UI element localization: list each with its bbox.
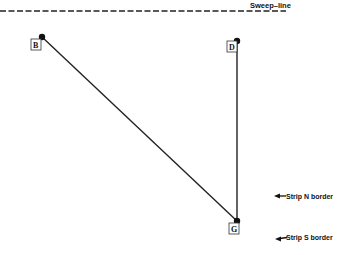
diagram-svg: Sweep–line B D G Strip N border Strip S … — [0, 0, 352, 255]
edge-b-g — [42, 37, 237, 221]
strip-n-annotation: Strip N border — [274, 193, 333, 201]
diagram-canvas: Sweep–line B D G Strip N border Strip S … — [0, 0, 352, 255]
strip-s-label: Strip S border — [286, 234, 333, 242]
strip-s-annotation: Strip S border — [275, 234, 333, 242]
point-d-label: D — [229, 43, 235, 52]
point-g-label: G — [231, 225, 237, 234]
point-b-label: B — [33, 41, 39, 50]
strip-n-label: Strip N border — [286, 193, 333, 201]
sweep-line-label: Sweep–line — [250, 1, 291, 10]
